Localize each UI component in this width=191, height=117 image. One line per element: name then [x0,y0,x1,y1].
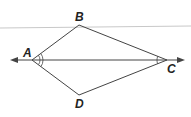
arrow-line-ac [10,57,185,63]
kite-diagram: A B C D [0,0,191,117]
label-d: D [75,97,84,111]
arrow-right-icon [177,57,185,63]
label-b: B [75,10,84,24]
label-c: C [167,62,176,76]
label-a: A [22,46,32,60]
guide-line [0,26,191,28]
arrow-left-icon [10,57,18,63]
